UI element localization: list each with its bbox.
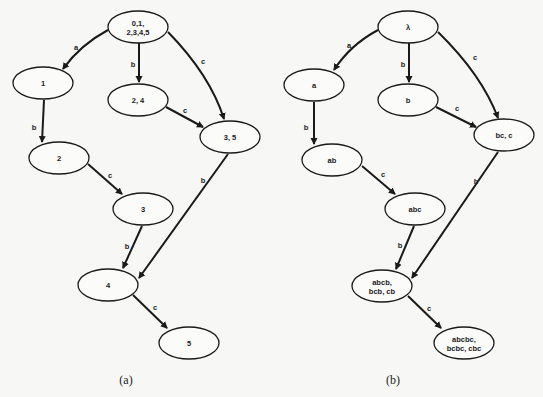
diagram-b-state-graph: abccbcbbcλabbc, cababcabcb,bcb, cbabcbc,…	[284, 11, 534, 387]
edge-label: b	[304, 123, 309, 132]
node-label: 0,1,	[132, 19, 145, 28]
edge-label: b	[125, 242, 130, 251]
arrow-icon	[63, 30, 108, 69]
arrow-icon	[362, 166, 395, 194]
edge-label: c	[455, 104, 459, 113]
node-label: abcbc,	[452, 335, 476, 344]
diagram-caption: (a)	[119, 373, 132, 387]
node-label: bcbc, cbc	[447, 344, 482, 353]
node-label: b	[406, 96, 411, 105]
state-node-mbc: bc, c	[474, 119, 534, 151]
edge-ma-mab: b	[304, 102, 314, 144]
state-node-n1: 1	[13, 67, 73, 99]
state-node-m0: λ	[378, 11, 438, 43]
state-node-n3: 3	[113, 193, 173, 225]
state-node-n4: 4	[78, 269, 138, 301]
state-node-n0: 0,1,2,3,4,5	[108, 11, 168, 43]
state-node-mabc: abc	[385, 193, 445, 225]
edge-label: b	[32, 123, 37, 132]
arrow-icon	[168, 32, 224, 119]
diagram-caption: (b)	[386, 373, 400, 387]
state-node-ma: a	[284, 69, 344, 101]
arrow-icon	[334, 30, 378, 70]
diagram-a-state-graph: abccbcbbc0,1,2,3,4,512, 43, 52345(a)	[13, 11, 260, 387]
node-label: abc	[409, 205, 422, 214]
node-label: 3, 5	[224, 133, 237, 142]
edge-label: c	[153, 303, 157, 312]
state-node-mabcbc: abcbc,bcbc, cbc	[434, 327, 494, 359]
node-label: 5	[187, 339, 191, 348]
edge-mb-mbc: c	[436, 104, 476, 127]
arrow-icon	[42, 100, 44, 142]
edge-label: c	[427, 304, 431, 313]
edge-n0-n35: c	[168, 32, 224, 119]
edge-n2-n3: c	[88, 164, 122, 194]
edge-label: b	[131, 60, 136, 69]
edge-n4-n5: c	[133, 295, 167, 328]
edge-mabcb-mabcbc: c	[408, 296, 441, 328]
edge-n0-n1: a	[63, 30, 108, 69]
edge-label: c	[381, 170, 385, 179]
state-node-mab: ab	[302, 144, 362, 176]
state-node-n5: 5	[159, 327, 219, 359]
edge-m0-ma: a	[334, 30, 378, 70]
node-label: 2, 4	[132, 96, 145, 105]
edge-label: c	[108, 171, 112, 180]
edge-mab-mabc: c	[362, 166, 395, 194]
node-label: 2	[57, 154, 61, 163]
state-node-mb: b	[378, 84, 438, 116]
edge-n3-n4: b	[123, 226, 142, 268]
state-node-mabcb: abcb,bcb, cb	[352, 270, 412, 302]
node-label: 1	[41, 79, 45, 88]
arrow-icon	[133, 295, 167, 328]
edge-n0-n24: b	[131, 43, 139, 82]
arrow-icon	[88, 164, 122, 194]
edge-m0-mbc: c	[438, 32, 498, 118]
edge-label: b	[398, 241, 403, 250]
diagram-canvas: abccbcbbc0,1,2,3,4,512, 43, 52345(a) abc…	[0, 0, 543, 397]
arrow-icon	[408, 296, 441, 328]
edge-m0-mb: b	[401, 43, 409, 82]
edge-n24-n35: c	[166, 106, 203, 127]
arrow-icon	[438, 32, 498, 118]
edge-label: c	[201, 57, 205, 66]
node-label: ab	[328, 156, 337, 165]
edge-label: b	[201, 176, 206, 185]
state-node-n2: 2	[29, 142, 89, 174]
edge-label: b	[474, 177, 479, 186]
node-label: 2,3,4,5	[127, 28, 150, 37]
edge-n1-n2: b	[32, 100, 44, 142]
node-label: bcb, cb	[369, 287, 396, 296]
node-label: abcb,	[372, 278, 392, 287]
edge-label: c	[183, 106, 187, 115]
edge-label: b	[401, 60, 406, 69]
node-label: 3	[141, 205, 145, 214]
node-label: bc, c	[495, 131, 512, 140]
state-node-n24: 2, 4	[108, 84, 168, 116]
edge-mabc-mabcb: b	[396, 226, 414, 269]
state-node-n35: 3, 5	[200, 121, 260, 153]
edge-label: c	[473, 53, 477, 62]
